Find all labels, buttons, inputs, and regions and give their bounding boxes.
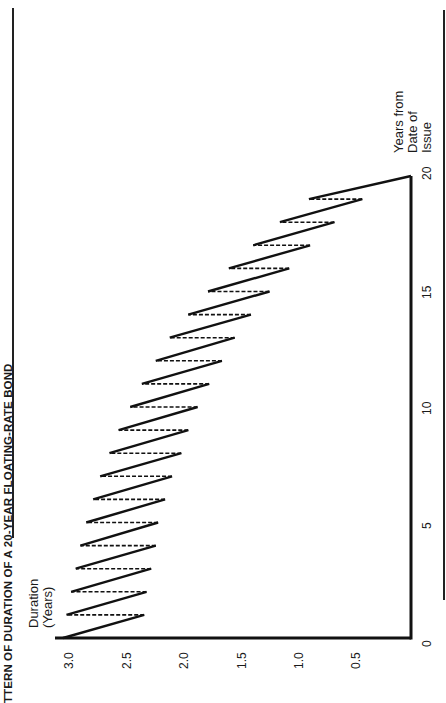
duration-decay-segment (170, 315, 251, 338)
duration-decay-segment (76, 546, 156, 569)
duration-decay-segment (208, 268, 289, 291)
duration-decay-segment (66, 592, 146, 615)
duration-decay-segment (253, 222, 334, 245)
chart-axes (55, 176, 411, 640)
duration-decay-segment (93, 476, 172, 499)
duration-decay-segment (229, 245, 310, 268)
duration-decay-segment (142, 361, 222, 384)
duration-decay-segment (130, 384, 209, 407)
duration-decay-segment (156, 338, 235, 361)
duration-decay-segment (63, 615, 144, 638)
duration-decay-segment (188, 292, 269, 315)
duration-decay-segment (80, 523, 158, 546)
duration-decay-segment (309, 176, 411, 199)
duration-decay-segment (280, 199, 362, 222)
duration-decay-segment (100, 453, 181, 476)
duration-decay-segment (109, 430, 188, 453)
duration-sawtooth-series (63, 176, 411, 638)
duration-decay-segment (86, 499, 165, 522)
duration-decay-segment (119, 407, 198, 430)
duration-decay-segment (71, 569, 151, 592)
